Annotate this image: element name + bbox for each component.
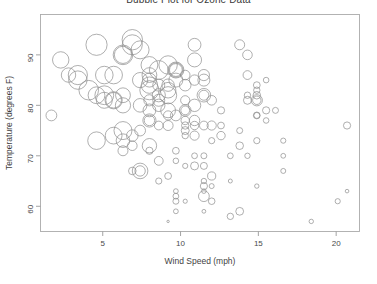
bubble-point: [217, 131, 225, 139]
bubble-point: [199, 90, 209, 100]
y-tick-label: 70: [27, 154, 36, 163]
bubble-point: [263, 107, 270, 114]
bubble-point: [105, 127, 122, 144]
bubble-point: [237, 128, 243, 134]
bubble-point: [172, 147, 179, 154]
bubble-point: [236, 142, 244, 150]
bubble-point: [243, 96, 251, 104]
bubble-point: [88, 132, 106, 150]
bubble-point: [154, 121, 163, 130]
bubble-point: [181, 116, 189, 124]
bubble-point: [208, 198, 215, 205]
bubble-point: [263, 77, 269, 83]
bubble-point: [105, 66, 123, 84]
bubble-point: [53, 52, 69, 68]
bubble-point: [181, 127, 189, 135]
bubble-point: [116, 88, 131, 103]
bubble-point: [309, 219, 313, 223]
bubble-point: [181, 106, 190, 115]
plot-canvas: 5101520 60708090 Wind Speed (mph) Temper…: [0, 0, 377, 284]
bubble-point: [208, 172, 216, 180]
bubble-point: [218, 122, 225, 129]
y-axis-title: Temperature (degrees F): [4, 76, 14, 170]
bubble-point: [182, 132, 188, 138]
bubble-point: [96, 66, 114, 84]
bubble-point: [200, 162, 207, 169]
bubble-point: [183, 163, 188, 168]
bubble-point: [188, 99, 200, 111]
bubble-point: [228, 179, 232, 183]
bubble-point: [254, 138, 260, 144]
bubble-point: [201, 178, 206, 183]
bubble-point: [135, 125, 146, 136]
bubble-point: [281, 168, 286, 173]
bubble-point: [272, 107, 278, 113]
x-axis-title: Wind Speed (mph): [165, 256, 236, 266]
bubble-point: [281, 138, 286, 143]
bubble-point: [236, 207, 244, 215]
bubble-point: [202, 209, 206, 213]
bubble-point: [255, 184, 259, 188]
bubble-point: [281, 153, 286, 158]
bubble-point: [164, 111, 173, 120]
y-tick-label: 60: [27, 204, 36, 213]
bubble-point: [254, 87, 260, 93]
bubble-point: [173, 158, 179, 164]
bubble-point: [156, 178, 162, 184]
bubble-point: [163, 121, 173, 131]
bubble-point: [128, 141, 138, 151]
x-tick-label: 20: [332, 239, 341, 248]
bubble-plot-figure: Bubble Plot for Ozone Data 5101520 60708…: [0, 0, 377, 284]
bubble-point: [192, 153, 198, 159]
bubble-point: [263, 118, 269, 124]
bubble-point: [188, 38, 201, 51]
bubble-point: [335, 199, 340, 204]
bubble-point: [127, 130, 139, 142]
bubble-point: [198, 191, 209, 202]
bubble-point: [165, 173, 172, 180]
bubble-point: [235, 40, 245, 50]
bubble-point: [254, 112, 260, 118]
bubble-point: [227, 213, 233, 219]
bubble-point: [86, 34, 107, 55]
y-tick-label: 90: [27, 53, 36, 62]
bubble-point: [217, 107, 224, 114]
bubble-point: [183, 199, 187, 203]
bubble-point: [345, 189, 349, 193]
bubble-point: [201, 153, 207, 159]
bubble-point: [209, 184, 214, 189]
bubble-point: [245, 153, 250, 158]
bubble-point: [182, 122, 189, 129]
x-axis-ticks: 5101520: [101, 232, 342, 248]
bubble-point: [162, 79, 174, 91]
bubble-point: [154, 156, 163, 165]
bubble-point: [69, 71, 87, 89]
bubble-point: [142, 73, 156, 87]
bubble-point: [167, 220, 169, 222]
bubble-series: [46, 30, 351, 224]
bubble-point: [173, 209, 178, 214]
bubble-point: [96, 92, 112, 108]
bubble-point: [133, 99, 147, 113]
bubble-point: [253, 112, 260, 119]
bubble-point: [146, 147, 153, 154]
bubble-point: [209, 138, 215, 144]
bubble-point: [253, 82, 260, 89]
bubble-point: [243, 50, 253, 60]
bubble-point: [188, 53, 202, 67]
bubble-point: [244, 92, 250, 98]
bubble-point: [142, 139, 156, 153]
bubble-point: [181, 96, 190, 105]
x-tick-label: 15: [254, 239, 263, 248]
bubble-point: [191, 162, 199, 170]
y-axis-ticks: 60708090: [27, 53, 41, 214]
bubble-point: [46, 110, 57, 121]
bubble-point: [343, 122, 350, 129]
bubble-point: [170, 110, 181, 121]
y-tick-label: 80: [27, 103, 36, 112]
bubble-point: [243, 71, 252, 80]
bubble-point: [79, 80, 99, 100]
bubble-point: [227, 153, 233, 159]
bubble-point: [190, 131, 199, 140]
bubble-point: [173, 189, 178, 194]
